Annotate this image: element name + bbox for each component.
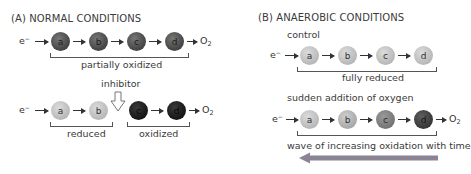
arrow-icon — [322, 119, 334, 120]
carrier-b: b — [338, 110, 357, 129]
arrow-icon — [111, 41, 123, 42]
arrow-icon — [360, 55, 372, 56]
arrow-icon — [35, 41, 48, 42]
state-label: partially oxidized — [81, 59, 162, 70]
inhibitor-label: inhibitor — [101, 78, 140, 89]
bracket — [50, 53, 189, 58]
carrier-d: d — [414, 46, 433, 65]
arrow-icon — [189, 110, 199, 111]
arrow-icon — [73, 41, 85, 42]
electron-label: e− — [270, 49, 281, 60]
carrier-d: d — [165, 32, 184, 51]
oxygen-label: O2 — [449, 113, 461, 126]
carrier-c: c — [376, 46, 395, 65]
arrow-icon — [35, 110, 48, 111]
carrier-a: a — [51, 101, 70, 120]
arrow-icon — [322, 55, 334, 56]
bracket — [297, 131, 437, 136]
electron-label: e− — [272, 113, 283, 124]
carrier-a: a — [300, 46, 319, 65]
arrow-icon — [187, 41, 197, 42]
electron-label: e− — [19, 35, 30, 46]
state-label: fully reduced — [342, 72, 404, 83]
panel-a-title: (A) NORMAL CONDITIONS — [11, 13, 141, 24]
arrow-icon — [286, 119, 298, 120]
carrier-c: c — [127, 32, 146, 51]
reduced-label: reduced — [67, 128, 106, 139]
oxygen-label: O2 — [200, 35, 212, 48]
carrier-a: a — [51, 32, 70, 51]
arrow-icon — [149, 41, 161, 42]
wave-arrow-icon — [298, 152, 440, 164]
carrier-a: a — [300, 110, 319, 129]
inhibitor-arrow-icon — [110, 91, 126, 113]
carrier-b: b — [338, 46, 357, 65]
arrow-icon — [285, 55, 298, 56]
carrier-b: b — [89, 32, 108, 51]
bracket-reduced — [50, 122, 113, 127]
arrow-icon — [398, 119, 410, 120]
bracket-oxidized — [127, 122, 190, 127]
carrier-c: c — [129, 101, 148, 120]
wave-label: wave of increasing oxidation with time — [287, 140, 471, 151]
oxygen-addition-label: sudden addition of oxygen — [287, 92, 414, 103]
panel-b-title: (B) ANAEROBIC CONDITIONS — [258, 12, 404, 23]
oxidized-label: oxidized — [139, 128, 178, 139]
arrow-icon — [436, 119, 446, 120]
arrow-icon — [360, 119, 372, 120]
arrow-icon — [151, 110, 163, 111]
carrier-c: c — [376, 110, 395, 129]
carrier-b: b — [89, 101, 108, 120]
electron-label: e− — [19, 104, 30, 115]
carrier-d: d — [414, 110, 433, 129]
oxygen-label: O2 — [202, 104, 214, 117]
carrier-d: d — [167, 101, 186, 120]
control-label: control — [287, 29, 320, 40]
arrow-icon — [398, 55, 410, 56]
arrow-icon — [73, 110, 85, 111]
